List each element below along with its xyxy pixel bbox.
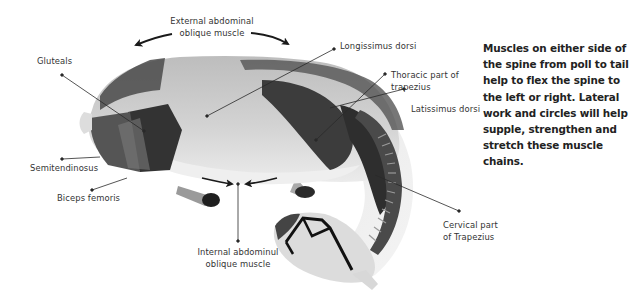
- label-line-2: of Trapezius: [443, 231, 498, 243]
- label-thoracic-trapezius: Thoracic part of trapezius: [391, 69, 459, 93]
- arrow-right: [251, 33, 288, 44]
- label-external-oblique: External abdominal oblique muscle: [168, 15, 256, 39]
- label-cervical-trapezius: Cervical part of Trapezius: [443, 219, 498, 243]
- label-internal-oblique: Internal abdominul oblique muscle: [190, 246, 286, 270]
- label-line-1: External abdominal: [168, 15, 256, 27]
- label-line-2: oblique muscle: [190, 258, 286, 270]
- description-text: Muscles on either side of the spine from…: [483, 40, 633, 170]
- label-biceps-femoris: Biceps femoris: [57, 192, 120, 204]
- hind-leg: [176, 186, 220, 207]
- label-line-1: Internal abdominul: [190, 246, 286, 258]
- label-line-1: Cervical part: [443, 219, 498, 231]
- label-longissimus-dorsi: Longissimus dorsi: [340, 40, 416, 52]
- label-gluteals: Gluteals: [37, 55, 72, 67]
- arrow-left: [136, 34, 172, 45]
- muscle-diagram: External abdominal oblique muscle Longis…: [0, 0, 635, 298]
- label-line-2: oblique muscle: [168, 27, 256, 39]
- label-latissimus-dorsi: Latissimus dorsi: [411, 103, 480, 115]
- label-semitendinosus: Semitendinosus: [30, 162, 98, 174]
- label-line-1: Thoracic part of: [391, 69, 459, 81]
- label-line-2: trapezius: [391, 81, 459, 93]
